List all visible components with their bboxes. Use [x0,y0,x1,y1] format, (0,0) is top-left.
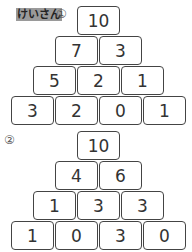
pyramid-cell: 3 [77,191,120,220]
pyramid-cell: 0 [143,221,186,250]
problem-number-2: ② [4,133,15,147]
pyramid-cell: 2 [55,96,98,125]
pyramid-cell: 0 [99,96,142,125]
pyramid-cell: 1 [33,191,76,220]
pyramid-cell: 2 [77,66,120,95]
pyramid-cell: 1 [11,221,54,250]
pyramid-cell: 6 [99,161,142,190]
problem-number-1: ① [56,7,67,21]
pyramid-cell: 4 [55,161,98,190]
pyramid-cell: 1 [121,66,164,95]
pyramid-cell: 3 [11,96,54,125]
pyramid-cell: 3 [99,36,142,65]
pyramid-cell: 5 [33,66,76,95]
pyramid-cell: 7 [55,36,98,65]
pyramid-cell: 1 [143,96,186,125]
pyramid-cell: 10 [77,6,120,35]
pyramid-cell: 0 [55,221,98,250]
pyramid-cell: 3 [121,191,164,220]
pyramid-cell: 3 [99,221,142,250]
pyramid-cell: 10 [77,131,120,160]
